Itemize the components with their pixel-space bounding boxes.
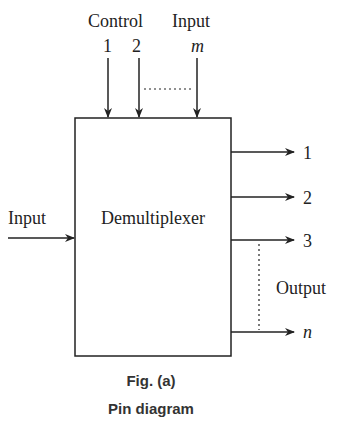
output-3-label: 3 <box>303 231 312 251</box>
control-input-label: Input <box>172 11 210 31</box>
output-n-label: n <box>303 322 312 342</box>
output-2-label: 2 <box>303 188 312 208</box>
input-label: Input <box>8 208 46 228</box>
control-label: Control <box>88 11 143 31</box>
demultiplexer-block <box>75 118 231 356</box>
output-label: Output <box>276 278 326 298</box>
figure-title: Pin diagram <box>108 400 194 417</box>
control-pin-2-label: 2 <box>132 36 141 56</box>
demultiplexer-pin-diagram: Control Input 1 2 m Demultiplexer Input … <box>0 0 340 427</box>
control-pin-1-label: 1 <box>103 36 112 56</box>
figure-caption: Fig. (a) <box>126 372 175 389</box>
output-1-label: 1 <box>303 143 312 163</box>
control-pin-m-label: m <box>191 36 204 56</box>
block-label: Demultiplexer <box>101 208 205 228</box>
